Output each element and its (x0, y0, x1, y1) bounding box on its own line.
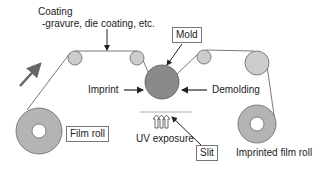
direction-arrow (20, 64, 40, 86)
imprinted-film-roll (238, 105, 276, 143)
coating-title: Coating (38, 7, 72, 17)
guide-roller-4 (245, 51, 269, 75)
guide-roller-2 (130, 51, 144, 65)
film-roll (16, 108, 62, 154)
mold-label: Mold (172, 27, 202, 43)
slit-label: Slit (196, 145, 218, 161)
mold-pointer (167, 44, 182, 65)
guide-roller-1 (68, 51, 82, 65)
imprinted-film-roll-label: Imprinted film roll (236, 148, 312, 158)
demolding-label: Demolding (212, 85, 260, 95)
mold-roller (145, 65, 179, 99)
film-roll-label: Film roll (66, 126, 109, 142)
guide-roller-3 (197, 50, 211, 64)
uv-arrows-icon (153, 115, 170, 128)
imprint-label: Imprint (88, 85, 119, 95)
coating-methods: -gravure, die coating, etc. (42, 19, 155, 29)
uv-exposure-label: UV exposure (136, 134, 194, 144)
